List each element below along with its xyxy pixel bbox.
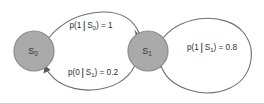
transition-s1-to-s0-label-bar: | (81, 66, 84, 78)
transition-s0-to-s1-label-suffix: ) = 1 (96, 21, 113, 30)
transition-s0-to-s1-label-bar: | (83, 19, 86, 31)
state-node-s1-label-sub: 1 (148, 50, 152, 57)
transition-s1-to-s0-label-suffix: ) = 0.2 (95, 68, 119, 77)
transition-s1-self-loop-label: p(1|S1) = 0.8 (187, 41, 237, 53)
transition-s1-self-loop-label-prefix: p(1 (187, 43, 199, 52)
transition-s1-self-loop-label-suffix: ) = 0.8 (214, 43, 238, 52)
transition-s0-to-s1-label-prefix: p(1 (69, 21, 81, 30)
transition-s1-to-s0-label: p(0|S1) = 0.2 (68, 66, 118, 78)
state-node-s0-label-sub: 0 (34, 50, 38, 57)
transition-s1-to-s0-label-prefix: p(0 (68, 68, 80, 77)
diagram-canvas: S0 S1 p(1|S0) = 1 p(0|S1) = 0.2 p(1|S1) … (0, 0, 264, 104)
transition-s0-to-s1-label: p(1|S0) = 1 (69, 19, 113, 31)
transition-s1-self-loop-label-bar: | (200, 41, 203, 53)
transition-s1-self-loop-arc (162, 18, 251, 92)
state-transition-diagram: S0 S1 p(1|S0) = 1 p(0|S1) = 0.2 p(1|S1) … (0, 0, 264, 104)
